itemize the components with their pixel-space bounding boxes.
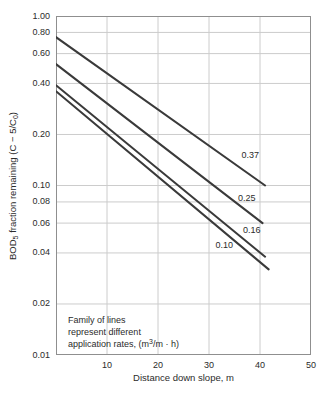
y-tick-label: 0.10	[6, 180, 50, 191]
note-line: application rates, (m3/m · h)	[68, 338, 179, 350]
y-tick-label: 0.01	[6, 350, 50, 361]
y-tick-label: 0.02	[6, 298, 50, 309]
y-tick-label: 0.80	[6, 27, 50, 38]
x-tick-label: 50	[296, 360, 326, 371]
series-label: 0.10	[207, 240, 241, 251]
plot-area	[56, 16, 311, 355]
y-tick-label: 0.20	[6, 129, 50, 140]
y-tick-label: 0.04	[6, 247, 50, 258]
series-label: 0.37	[233, 150, 267, 161]
note-line: represent different	[68, 326, 179, 338]
y-tick-label: 0.60	[6, 48, 50, 59]
x-tick-label: 30	[194, 360, 224, 371]
x-axis-title: Distance down slope, m	[56, 372, 311, 384]
y-tick-label: 1.00	[6, 11, 50, 22]
x-tick-label: 20	[143, 360, 173, 371]
x-tick-label: 40	[245, 360, 275, 371]
series-label: 0.25	[230, 193, 264, 204]
y-tick-label: 0.08	[6, 196, 50, 207]
annotation-note: Family of linesrepresent differentapplic…	[68, 314, 179, 350]
semilog-line-chart: BOD5 fraction remaining (C − 5/C0) Dista…	[0, 0, 331, 395]
y-tick-label: 0.06	[6, 218, 50, 229]
note-line: Family of lines	[68, 314, 179, 326]
x-tick-label: 10	[92, 360, 122, 371]
series-label: 0.16	[235, 225, 269, 236]
y-tick-label: 0.40	[6, 78, 50, 89]
